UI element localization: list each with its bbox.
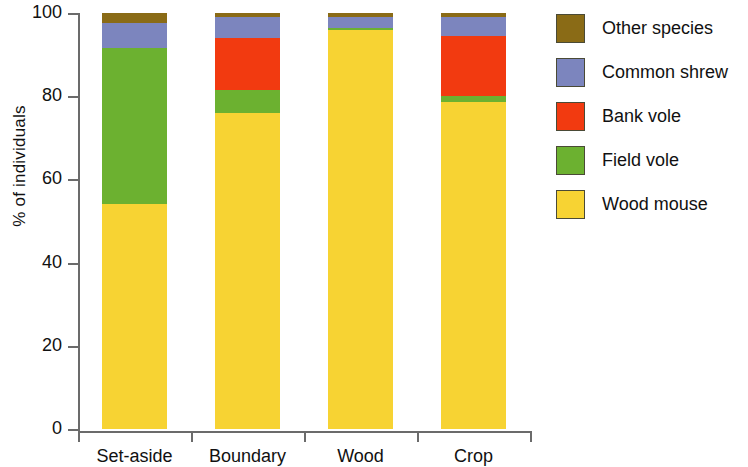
bar-segment-field-vole[interactable] xyxy=(441,96,506,102)
legend-swatch-icon xyxy=(556,58,585,87)
x-axis-tick xyxy=(417,431,419,442)
chart-legend: Other speciesCommon shrewBank voleField … xyxy=(556,6,746,226)
y-axis-tick-label: 20 xyxy=(42,335,62,355)
y-axis-line xyxy=(78,13,80,432)
bar-segment-wood-mouse[interactable] xyxy=(102,204,167,429)
bar-crop[interactable] xyxy=(441,13,506,429)
y-axis-tick: 100 xyxy=(68,13,78,15)
bar-segment-field-vole[interactable] xyxy=(102,48,167,204)
legend-label: Common shrew xyxy=(602,61,728,83)
y-axis-tick: 80 xyxy=(68,96,78,98)
y-axis-tick-label: 80 xyxy=(42,85,62,105)
legend-label: Other species xyxy=(602,17,713,39)
bar-segment-common-shrew[interactable] xyxy=(328,17,393,27)
y-axis-tick-label: 100 xyxy=(32,2,62,22)
legend-swatch-icon xyxy=(556,190,585,219)
bar-segment-wood-mouse[interactable] xyxy=(215,113,280,429)
bar-set-aside[interactable] xyxy=(102,13,167,429)
y-axis-tick: 0 xyxy=(68,429,78,431)
x-axis-label-set-aside: Set-aside xyxy=(78,445,191,467)
legend-swatch-icon xyxy=(556,102,585,131)
bar-segment-bank-vole[interactable] xyxy=(441,36,506,96)
bar-boundary[interactable] xyxy=(215,13,280,429)
bar-segment-field-vole[interactable] xyxy=(328,28,393,30)
y-axis-tick-label: 40 xyxy=(42,252,62,272)
legend-label: Field vole xyxy=(602,149,679,171)
legend-swatch-icon xyxy=(556,14,585,43)
x-axis-tick xyxy=(78,431,80,442)
x-axis-tick xyxy=(530,431,532,442)
bar-segment-common-shrew[interactable] xyxy=(102,23,167,48)
bar-segment-wood-mouse[interactable] xyxy=(328,30,393,429)
y-axis-title: % of individuals xyxy=(10,86,30,246)
legend-item-other-species[interactable]: Other species xyxy=(556,6,746,50)
x-axis-label-boundary: Boundary xyxy=(191,445,304,467)
bar-segment-other-species[interactable] xyxy=(441,13,506,17)
x-axis-tick xyxy=(191,431,193,442)
legend-label: Bank vole xyxy=(602,105,681,127)
x-axis-label-wood: Wood xyxy=(304,445,417,467)
bar-segment-wood-mouse[interactable] xyxy=(441,102,506,429)
y-axis-tick-label: 0 xyxy=(52,418,62,438)
legend-swatch-icon xyxy=(556,146,585,175)
bar-segment-other-species[interactable] xyxy=(328,13,393,17)
legend-item-bank-vole[interactable]: Bank vole xyxy=(556,94,746,138)
y-axis-tick-label: 60 xyxy=(42,168,62,188)
legend-label: Wood mouse xyxy=(602,193,708,215)
plot-area: 020406080100 Set-asideBoundaryWoodCrop xyxy=(78,13,530,431)
y-axis-tick: 60 xyxy=(68,179,78,181)
bar-segment-other-species[interactable] xyxy=(215,13,280,17)
y-axis-tick: 20 xyxy=(68,346,78,348)
x-axis-tick xyxy=(304,431,306,442)
y-axis-tick: 40 xyxy=(68,263,78,265)
legend-item-common-shrew[interactable]: Common shrew xyxy=(556,50,746,94)
bar-segment-field-vole[interactable] xyxy=(215,90,280,113)
bar-wood[interactable] xyxy=(328,13,393,429)
legend-item-field-vole[interactable]: Field vole xyxy=(556,138,746,182)
bar-segment-bank-vole[interactable] xyxy=(215,38,280,90)
bar-segment-common-shrew[interactable] xyxy=(215,17,280,38)
bar-segment-other-species[interactable] xyxy=(102,13,167,23)
legend-item-wood-mouse[interactable]: Wood mouse xyxy=(556,182,746,226)
bar-segment-common-shrew[interactable] xyxy=(441,17,506,36)
x-axis-label-crop: Crop xyxy=(417,445,530,467)
